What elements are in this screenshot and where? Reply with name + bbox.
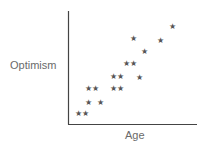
star-marker-icon: ★: [136, 74, 143, 82]
star-marker-icon: ★: [117, 85, 124, 93]
star-marker-icon: ★: [141, 48, 148, 56]
star-marker-icon: ★: [157, 37, 164, 45]
star-marker-icon: ★: [85, 85, 92, 93]
star-marker-icon: ★: [130, 35, 137, 43]
star-marker-icon: ★: [97, 99, 104, 107]
star-marker-icon: ★: [85, 99, 92, 107]
star-marker-icon: ★: [110, 85, 117, 93]
chart-axes: [0, 0, 208, 149]
star-marker-icon: ★: [169, 23, 176, 31]
star-marker-icon: ★: [92, 85, 99, 93]
star-marker-icon: ★: [82, 110, 89, 118]
x-axis-label: Age: [125, 129, 145, 141]
star-marker-icon: ★: [130, 60, 137, 68]
star-marker-icon: ★: [75, 110, 82, 118]
star-marker-icon: ★: [110, 73, 117, 81]
y-axis-label: Optimism: [10, 59, 56, 71]
star-marker-icon: ★: [123, 60, 130, 68]
star-marker-icon: ★: [117, 73, 124, 81]
